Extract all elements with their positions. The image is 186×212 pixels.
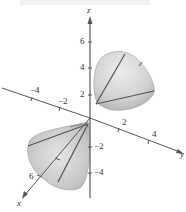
z-axis-label: z: [87, 6, 91, 15]
y-axis-line: [2, 88, 90, 118]
cone-plot: [0, 0, 186, 212]
z-tick-minus-2: −2: [94, 142, 104, 151]
y-tick-2: 2: [122, 118, 127, 127]
x-axis-label: x: [17, 199, 21, 208]
lower-nappe: [28, 122, 90, 190]
z-tick-4: 4: [80, 63, 85, 72]
y-tick-minus-4: −4: [30, 86, 40, 95]
upper-nappe: [94, 51, 154, 110]
z-tick-minus-4: −4: [94, 168, 104, 177]
top-band: [20, 0, 150, 5]
z-axis-arrow-icon: [88, 16, 93, 24]
x-tick-6: 6: [29, 172, 34, 181]
z-tick-6: 6: [80, 37, 85, 46]
y-tick-4: 4: [152, 130, 157, 139]
y-axis-label: y: [180, 150, 184, 159]
y-tick-minus-2: −2: [58, 97, 68, 106]
z-tick-2: 2: [80, 90, 85, 99]
